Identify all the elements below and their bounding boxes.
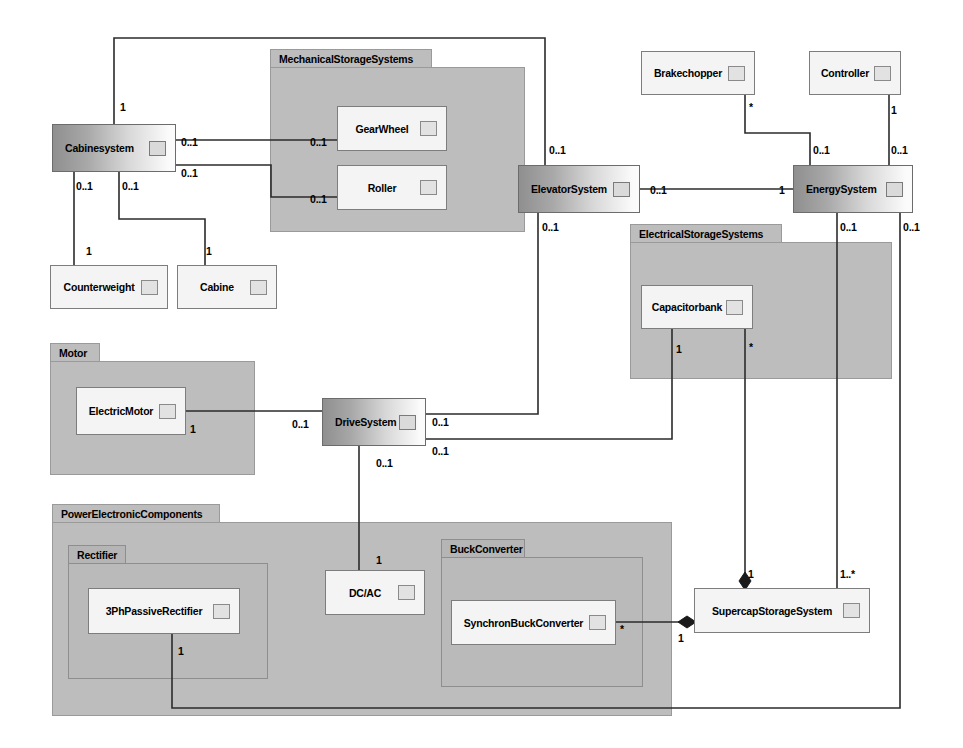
- class-name-label: Controller: [810, 67, 874, 79]
- class-drivesystem[interactable]: DriveSystem: [322, 398, 426, 446]
- multiplicity-label: 0..1: [650, 184, 667, 196]
- class-stereotype-icon: [213, 604, 230, 619]
- multiplicity-label: 0..1: [181, 136, 198, 148]
- class-elevatorsystem[interactable]: ElevatorSystem: [518, 165, 640, 213]
- multiplicity-label: 0..1: [891, 144, 908, 156]
- multiplicity-label: 1: [779, 184, 785, 196]
- package-tab-label: Motor: [50, 343, 100, 362]
- package-tab-label: BuckConverter: [441, 539, 525, 558]
- multiplicity-label: 0..1: [181, 167, 198, 179]
- class-stereotype-icon: [159, 404, 176, 419]
- multiplicity-label: 0..1: [432, 416, 449, 428]
- multiplicity-label: 1: [676, 343, 682, 355]
- class-name-label: SupercapStorageSystem: [695, 605, 843, 617]
- multiplicity-label: 1: [190, 423, 196, 435]
- class-controller[interactable]: Controller: [809, 51, 901, 95]
- class-name-label: GearWheel: [338, 123, 420, 135]
- class-synchron-buck-converter[interactable]: SynchronBuckConverter: [451, 600, 616, 645]
- class-stereotype-icon: [589, 615, 606, 630]
- multiplicity-label: 0..1: [376, 457, 393, 469]
- class-dcac[interactable]: DC/AC: [325, 570, 425, 615]
- class-cabinesystem[interactable]: Cabinesystem: [52, 124, 176, 172]
- class-stereotype-icon: [874, 66, 891, 81]
- multiplicity-label: 1: [206, 245, 212, 257]
- class-name-label: 3PhPassiveRectifier: [89, 605, 213, 617]
- class-stereotype-icon: [398, 585, 415, 600]
- class-roller[interactable]: Roller: [337, 165, 447, 210]
- multiplicity-label: 0..1: [542, 221, 559, 233]
- class-stereotype-icon: [420, 121, 437, 136]
- class-stereotype-icon: [726, 300, 743, 315]
- package-tab-label: ElectricalStorageSystems: [630, 224, 782, 243]
- wire-brakechopper-energysystem: [745, 95, 810, 165]
- class-stereotype-icon: [149, 141, 166, 156]
- multiplicity-label: 1: [178, 645, 184, 657]
- class-name-label: Cabine: [178, 281, 250, 293]
- class-name-label: Counterweight: [51, 281, 141, 293]
- multiplicity-label: 1: [891, 104, 897, 116]
- multiplicity-label: *: [749, 101, 753, 113]
- uml-diagram-canvas: MechanicalStorageSystems ElectricalStora…: [0, 0, 963, 748]
- class-name-label: Capacitorbank: [642, 301, 726, 313]
- multiplicity-label: 0..1: [310, 193, 327, 205]
- class-name-label: EnergySystem: [794, 183, 886, 195]
- multiplicity-label: 0..1: [76, 180, 93, 192]
- package-tab-label: MechanicalStorageSystems: [270, 49, 432, 68]
- class-stereotype-icon: [399, 415, 416, 430]
- multiplicity-label: 0..1: [122, 180, 139, 192]
- class-electricmotor[interactable]: ElectricMotor: [76, 387, 186, 435]
- multiplicity-label: 1: [120, 101, 126, 113]
- class-stereotype-icon: [141, 280, 158, 295]
- multiplicity-label: 0..1: [813, 144, 830, 156]
- class-name-label: Cabinesystem: [53, 142, 149, 154]
- multiplicity-label: 0..1: [840, 221, 857, 233]
- multiplicity-label: *: [620, 623, 624, 635]
- class-brakechopper[interactable]: Brakechopper: [641, 51, 755, 95]
- class-name-label: ElectricMotor: [77, 405, 159, 417]
- multiplicity-label: 0..1: [549, 144, 566, 156]
- class-stereotype-icon: [250, 280, 267, 295]
- package-tab-label: PowerElectronicComponents: [52, 504, 220, 523]
- class-name-label: DriveSystem: [323, 416, 399, 428]
- class-name-label: SynchronBuckConverter: [452, 617, 589, 629]
- class-name-label: Brakechopper: [642, 67, 728, 79]
- multiplicity-label: 1..*: [840, 568, 855, 580]
- class-stereotype-icon: [886, 182, 903, 197]
- class-3ph-passive-rectifier[interactable]: 3PhPassiveRectifier: [88, 588, 240, 634]
- class-stereotype-icon: [613, 182, 630, 197]
- class-name-label: ElevatorSystem: [519, 183, 613, 195]
- multiplicity-label: 0..1: [292, 418, 309, 430]
- class-stereotype-icon: [420, 180, 437, 195]
- class-gearwheel[interactable]: GearWheel: [337, 106, 447, 151]
- class-energysystem[interactable]: EnergySystem: [793, 165, 913, 213]
- multiplicity-label: 1: [376, 554, 382, 566]
- multiplicity-label: 0..1: [903, 221, 920, 233]
- multiplicity-label: *: [749, 341, 753, 353]
- multiplicity-label: 0..1: [432, 445, 449, 457]
- class-capacitorbank[interactable]: Capacitorbank: [641, 285, 753, 329]
- multiplicity-label: 0..1: [310, 136, 327, 148]
- class-stereotype-icon: [728, 66, 745, 81]
- multiplicity-label: 1: [678, 632, 684, 644]
- class-supercap-storage-system[interactable]: SupercapStorageSystem: [694, 588, 870, 633]
- class-name-label: DC/AC: [326, 587, 398, 599]
- package-tab-label: Rectifier: [68, 545, 126, 564]
- wire-elevatorsystem-drivesystem: [426, 213, 538, 414]
- class-cabine[interactable]: Cabine: [177, 265, 277, 309]
- class-counterweight[interactable]: Counterweight: [50, 265, 168, 309]
- class-stereotype-icon: [843, 603, 860, 618]
- class-name-label: Roller: [338, 182, 420, 194]
- multiplicity-label: 1: [86, 245, 92, 257]
- multiplicity-label: 1: [748, 568, 754, 580]
